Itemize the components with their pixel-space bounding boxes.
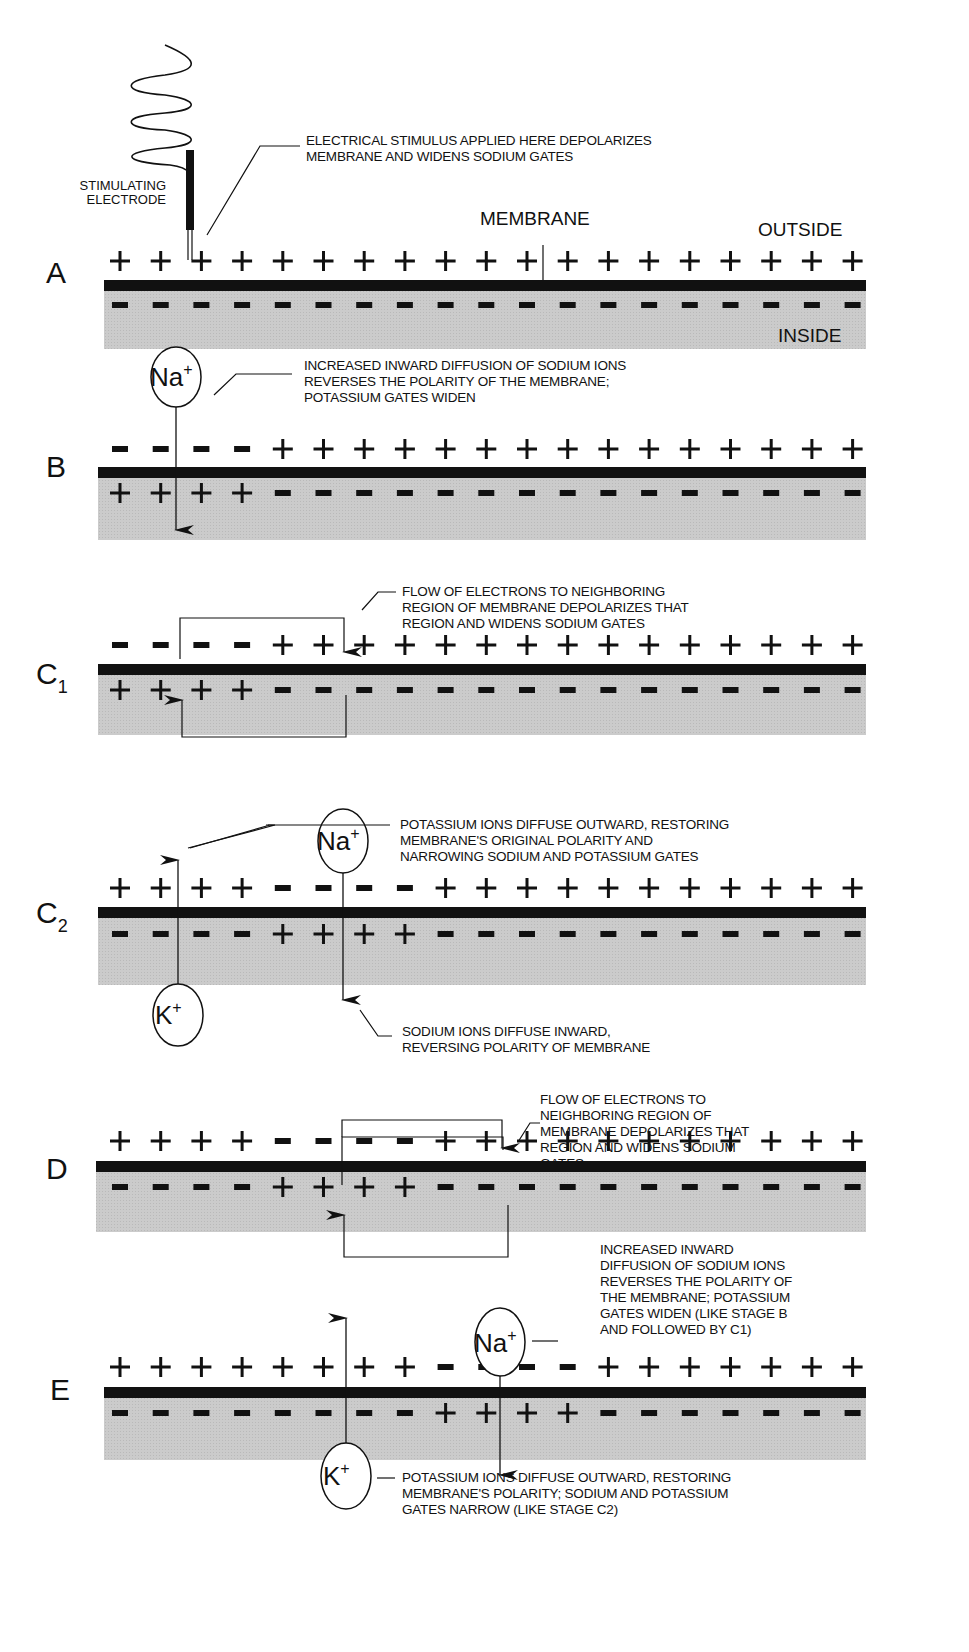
plus-charge-icon	[403, 635, 406, 655]
plus-charge-icon	[607, 1357, 610, 1377]
note-c2-line2: MEMBRANE'S ORIGINAL POLARITY AND	[400, 833, 653, 848]
leader-line-d	[518, 1123, 540, 1142]
minus-charge-icon	[804, 687, 820, 693]
inside-region-c2	[98, 918, 866, 985]
minus-charge-icon	[845, 1410, 861, 1416]
minus-charge-icon	[519, 302, 535, 308]
note-c2-lower-line2: REVERSING POLARITY OF MEMBRANE	[402, 1040, 650, 1055]
plus-charge-icon	[810, 251, 813, 271]
minus-charge-icon	[153, 1184, 169, 1190]
electrode-body	[186, 150, 194, 230]
plus-charge-icon	[281, 251, 284, 271]
plus-charge-icon	[810, 1357, 813, 1377]
minus-charge-icon	[275, 885, 291, 891]
stage-label-e: E	[50, 1373, 70, 1406]
minus-charge-icon	[641, 687, 657, 693]
plus-charge-icon	[566, 251, 569, 271]
note-b-line3: POTASSIUM GATES WIDEN	[304, 390, 476, 405]
plus-charge-icon	[607, 251, 610, 271]
stage-label-c1: C1	[36, 657, 68, 697]
membrane-bar-a	[104, 280, 866, 291]
plus-charge-icon	[322, 635, 325, 655]
stage-label-c2: C2	[36, 896, 68, 936]
minus-charge-icon	[763, 1184, 779, 1190]
stage-c2: C2 Na+ K+ POTASSIUM IONS DIFFUSE OUTWARD…	[36, 809, 866, 1055]
minus-charge-icon	[478, 302, 494, 308]
plus-charge-icon	[241, 680, 244, 700]
minus-charge-icon	[723, 687, 739, 693]
plus-charge-icon	[322, 1177, 325, 1197]
plus-charge-icon	[566, 1403, 569, 1423]
plus-charge-icon	[444, 251, 447, 271]
inside-region-c1	[98, 675, 866, 735]
minus-charge-icon	[397, 1138, 413, 1144]
plus-charge-icon	[648, 439, 651, 459]
plus-charge-icon	[281, 439, 284, 459]
minus-charge-icon	[438, 931, 454, 937]
minus-charge-icon	[682, 490, 698, 496]
minus-charge-icon	[519, 1184, 535, 1190]
minus-charge-icon	[763, 687, 779, 693]
minus-charge-icon	[641, 931, 657, 937]
minus-charge-icon	[438, 302, 454, 308]
minus-charge-icon	[600, 1184, 616, 1190]
plus-charge-icon	[363, 924, 366, 944]
minus-charge-icon	[438, 490, 454, 496]
minus-charge-icon	[275, 1410, 291, 1416]
plus-charge-icon	[810, 878, 813, 898]
minus-charge-icon	[153, 931, 169, 937]
minus-charge-icon	[356, 1410, 372, 1416]
note-b-line1: INCREASED INWARD DIFFUSION OF SODIUM ION…	[304, 358, 626, 373]
plus-charge-icon	[688, 635, 691, 655]
minus-charge-icon	[682, 1184, 698, 1190]
minus-charge-icon	[275, 687, 291, 693]
plus-charge-icon	[403, 439, 406, 459]
minus-charge-icon	[234, 446, 250, 452]
minus-charge-icon	[234, 1184, 250, 1190]
minus-charge-icon	[519, 931, 535, 937]
plus-charge-icon	[770, 635, 773, 655]
minus-charge-icon	[112, 642, 128, 648]
stage-label-a: A	[46, 256, 66, 289]
minus-charge-icon	[397, 687, 413, 693]
plus-charge-icon	[770, 1131, 773, 1151]
stage-a: STIMULATING ELECTRODE ELECTRICAL STIMULU…	[46, 45, 866, 349]
minus-charge-icon	[682, 1410, 698, 1416]
electrode-note-line2: MEMBRANE AND WIDENS SODIUM GATES	[306, 149, 573, 164]
minus-charge-icon	[153, 1410, 169, 1416]
plus-charge-icon	[526, 635, 529, 655]
stage-d: D FLOW OF ELECTRONS TO NEIGHBORING REGIO…	[46, 1092, 866, 1257]
note-e-line5: GATES WIDEN (LIKE STAGE B	[600, 1306, 787, 1321]
minus-charge-icon	[763, 931, 779, 937]
outside-charges-d	[110, 1131, 863, 1151]
minus-charge-icon	[356, 302, 372, 308]
minus-charge-icon	[845, 490, 861, 496]
minus-charge-icon	[112, 1184, 128, 1190]
minus-charge-icon	[316, 687, 332, 693]
plus-charge-icon	[851, 635, 854, 655]
minus-charge-icon	[560, 1184, 576, 1190]
plus-charge-icon	[200, 251, 203, 271]
note-e-line1-visible: INCREASED INWARD	[600, 1242, 734, 1257]
plus-charge-icon	[851, 1357, 854, 1377]
minus-charge-icon	[763, 1410, 779, 1416]
note-c2-line3: NARROWING SODIUM AND POTASSIUM GATES	[400, 849, 699, 864]
plus-charge-icon	[403, 1357, 406, 1377]
plus-charge-icon	[648, 1357, 651, 1377]
plus-charge-icon	[770, 878, 773, 898]
leader-line-c2-lower	[360, 1010, 392, 1036]
plus-charge-icon	[688, 439, 691, 459]
stage-label-d: D	[46, 1152, 68, 1185]
minus-charge-icon	[641, 302, 657, 308]
leader-line-b	[214, 374, 292, 395]
minus-charge-icon	[845, 302, 861, 308]
electrode-note-line1: ELECTRICAL STIMULUS APPLIED HERE DEPOLAR…	[306, 133, 652, 148]
outside-charges-a	[110, 251, 863, 271]
plus-charge-icon	[363, 251, 366, 271]
plus-charge-icon	[688, 1357, 691, 1377]
plus-charge-icon	[485, 1403, 488, 1423]
plus-charge-icon	[159, 1131, 162, 1151]
plus-charge-icon	[485, 635, 488, 655]
plus-charge-icon	[810, 1131, 813, 1151]
note-e-line2: DIFFUSION OF SODIUM IONS	[600, 1258, 785, 1273]
